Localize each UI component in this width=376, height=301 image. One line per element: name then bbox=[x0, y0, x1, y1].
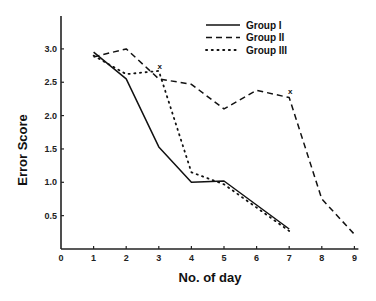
x-marker-annotation: x bbox=[158, 62, 163, 71]
y-tick-label: 1.0 bbox=[44, 177, 57, 187]
y-tick-label: 2.0 bbox=[44, 111, 57, 121]
legend-label: Group II bbox=[246, 32, 285, 43]
x-tick-label: 1 bbox=[91, 253, 96, 263]
x-tick-label: 2 bbox=[124, 253, 129, 263]
x-tick-label: 6 bbox=[254, 253, 259, 263]
series-line-group-ii bbox=[94, 49, 355, 234]
y-axis: 0.51.01.52.02.53.0 bbox=[44, 16, 64, 249]
legend-label: Group III bbox=[246, 45, 287, 56]
y-tick-label: 3.0 bbox=[44, 44, 57, 54]
x-axis-title: No. of day bbox=[179, 270, 243, 285]
x-tick-label: 0 bbox=[58, 253, 63, 263]
series-layer bbox=[94, 49, 355, 234]
y-tick-label: 1.5 bbox=[44, 144, 57, 154]
x-tick-label: 5 bbox=[221, 253, 226, 263]
x-marker-annotation: x bbox=[288, 87, 293, 96]
y-axis-title: Error Score bbox=[15, 114, 30, 186]
legend: Group IGroup IIGroup III bbox=[206, 20, 287, 56]
series-line-group-i bbox=[94, 52, 290, 229]
series-line-group-iii bbox=[94, 56, 290, 231]
legend-label: Group I bbox=[246, 20, 282, 31]
line-chart: 0.51.01.52.02.53.0 0123456789 xx Group I… bbox=[0, 0, 376, 301]
x-axis: 0123456789 bbox=[58, 246, 358, 263]
x-tick-label: 4 bbox=[189, 253, 194, 263]
x-tick-label: 3 bbox=[156, 253, 161, 263]
x-tick-label: 7 bbox=[287, 253, 292, 263]
x-tick-label: 8 bbox=[319, 253, 324, 263]
annotation-layer: xx bbox=[158, 62, 293, 96]
y-tick-label: 2.5 bbox=[44, 77, 57, 87]
y-tick-label: 0.5 bbox=[44, 211, 57, 221]
x-tick-label: 9 bbox=[352, 253, 357, 263]
